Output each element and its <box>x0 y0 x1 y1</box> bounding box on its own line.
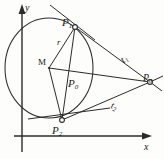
label-point-p0-interior-text: P <box>68 77 75 89</box>
chord-segment-p1-p2 <box>62 27 75 120</box>
label-point-p0-external: P0 <box>143 73 152 83</box>
label-radius-r: r <box>57 38 61 47</box>
tangent-line-through-p1 <box>50 5 95 40</box>
label-axis-x: x <box>144 142 148 152</box>
label-point-p1-text: P <box>62 16 69 28</box>
geometry-figure: P1 P2 P0 P0 M r t1 t2 x y <box>0 0 164 159</box>
label-point-p2: P2 <box>52 125 62 136</box>
point-marker-p2 <box>60 118 65 123</box>
x-axis-arrowhead <box>142 133 152 140</box>
label-point-p2-sub: 2 <box>59 130 63 138</box>
axes-group <box>14 4 152 152</box>
label-point-p1-sub: 1 <box>69 22 73 30</box>
point-marker-p1 <box>73 25 78 30</box>
geometry-canvas <box>0 0 164 159</box>
label-point-p0-interior: P0 <box>68 78 78 89</box>
label-point-p0-external-sub: 0 <box>149 77 152 84</box>
label-axis-y: y <box>25 3 29 13</box>
label-circle-center-m: M <box>38 58 46 67</box>
segment-m-p0 <box>49 68 150 82</box>
tangent-segment-t1 <box>75 27 150 82</box>
label-point-p2-text: P <box>52 124 59 136</box>
point-marker-m <box>48 67 50 69</box>
radius-segment-m-p2 <box>49 68 62 120</box>
label-point-p0-interior-sub: 0 <box>75 83 79 91</box>
label-point-p1: P1 <box>62 17 72 28</box>
radius-segment-m-p1 <box>49 27 75 68</box>
